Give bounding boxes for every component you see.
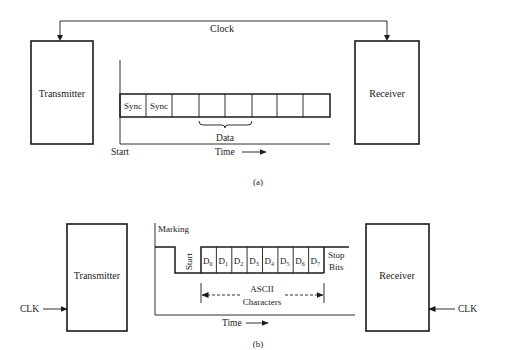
marking-label: Marking [158, 224, 189, 234]
diagram-canvas: Clock Transmitter Receiver Sync Sync Dat… [0, 0, 505, 350]
ascii-label: ASCII [250, 284, 274, 294]
clk-right-label: CLK [458, 304, 477, 314]
clk-left-label: CLK [20, 304, 39, 314]
bit-d6: D6 [295, 256, 305, 267]
data-label: Data [216, 133, 235, 143]
start-label: Start [111, 147, 129, 157]
bit-d0: D0 [203, 256, 213, 267]
start-bit-label: Start [184, 253, 194, 270]
bit-d7: D7 [311, 256, 321, 267]
arrow-down-icon [57, 35, 63, 41]
bit-d3: D3 [249, 256, 259, 267]
stop-bits-label-1: Stop [328, 250, 345, 260]
time-label: Time [222, 318, 242, 328]
transmitter-label: Transmitter [74, 270, 121, 281]
arrow-down-icon [384, 35, 390, 41]
clock-label: Clock [210, 23, 234, 34]
sync-cell-2: Sync [150, 101, 168, 111]
transmitter-label: Transmitter [39, 88, 86, 99]
receiver-label: Receiver [369, 88, 405, 99]
data-brace [199, 121, 252, 128]
bit-d2: D2 [234, 256, 244, 267]
diagram-b: Transmitter Receiver CLK CLK Marking Sta… [20, 223, 477, 349]
time-label: Time [215, 147, 235, 157]
stop-bits-label-2: Bits [329, 262, 344, 272]
bit-d4: D4 [265, 256, 275, 267]
caption-a: (a) [253, 177, 263, 187]
diagram-a: Clock Transmitter Receiver Sync Sync Dat… [31, 21, 419, 187]
caption-b: (b) [253, 339, 264, 349]
receiver-label: Receiver [379, 270, 415, 281]
bit-d5: D5 [280, 256, 290, 267]
characters-label: Characters [243, 297, 282, 307]
bit-d1: D1 [219, 256, 229, 267]
sync-cell-1: Sync [124, 101, 142, 111]
